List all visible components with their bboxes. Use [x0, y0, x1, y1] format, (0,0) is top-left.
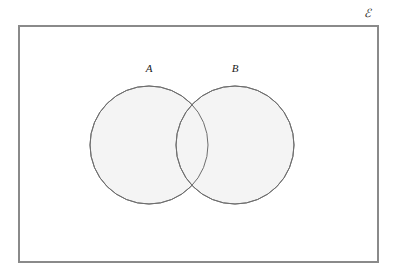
venn-diagram-canvas — [0, 0, 398, 280]
universal-set-label: ℰ — [364, 8, 371, 20]
set-b-label: B — [232, 63, 239, 74]
set-b-circle — [176, 86, 294, 204]
set-a-label: A — [146, 63, 153, 74]
venn-diagram-figure: ℰ A B — [0, 0, 398, 280]
